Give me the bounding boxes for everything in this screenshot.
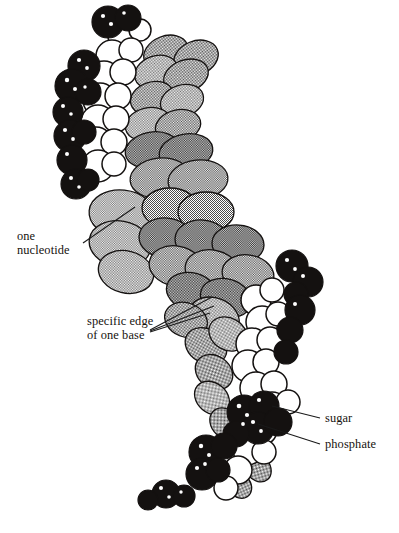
dna-figure: onenucleotide specific edgeof one base s… — [0, 0, 399, 533]
label-sugar: sugar — [325, 412, 352, 426]
label-specific-edge-line1: specific edge — [87, 314, 153, 328]
label-one-nucleotide: onenucleotide — [17, 230, 70, 257]
label-one-nucleotide-line1: one — [17, 229, 35, 243]
label-specific-edge-of-one-base: specific edgeof one base — [87, 315, 153, 342]
label-one-nucleotide-line2: nucleotide — [17, 243, 70, 257]
dna-illustration — [0, 0, 399, 533]
label-specific-edge-line2: of one base — [87, 328, 145, 342]
label-phosphate: phosphate — [325, 438, 376, 452]
